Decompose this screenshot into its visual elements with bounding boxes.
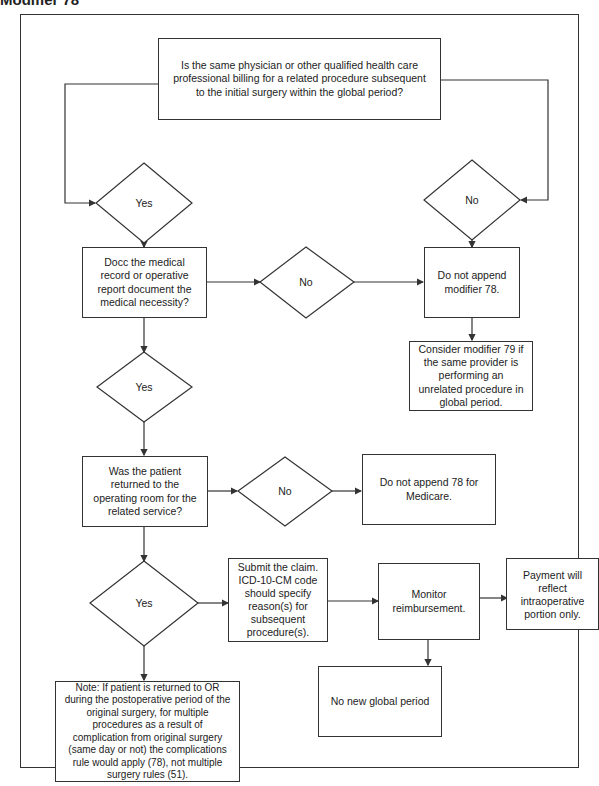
decision-label-no-1: No bbox=[465, 194, 478, 206]
decision-label-no-2: No bbox=[299, 276, 312, 288]
question-returned-to-or-box: Was the patient returned to the operatin… bbox=[82, 456, 208, 527]
decision-label-yes-2: Yes bbox=[135, 381, 152, 393]
question-same-physician-box: Is the same physician or other qualified… bbox=[158, 38, 441, 120]
decision-label-yes-3: Yes bbox=[135, 597, 152, 609]
decision-label-yes-1: Yes bbox=[135, 197, 152, 209]
note-box: Note: If patient is returned to OR durin… bbox=[55, 681, 240, 782]
question-medical-necessity-box: Docc the medical record or operative rep… bbox=[82, 247, 207, 318]
decision-label-no-3: No bbox=[278, 485, 291, 497]
result-submit-claim-box: Submit the claim. ICD-10-CM code should … bbox=[228, 558, 328, 642]
result-no-new-global-period-box: No new global period bbox=[318, 666, 442, 737]
result-consider-modifier-79-box: Consider modifier 79 if the same provide… bbox=[409, 341, 533, 411]
result-no-modifier-78-box: Do not append modifier 78. bbox=[424, 247, 520, 318]
result-payment-box: Payment will reflect intraoperative port… bbox=[506, 558, 599, 630]
result-no-78-medicare-box: Do not append 78 for Medicare. bbox=[362, 454, 496, 525]
result-monitor-reimbursement-box: Monitor reimbursement. bbox=[378, 563, 480, 640]
